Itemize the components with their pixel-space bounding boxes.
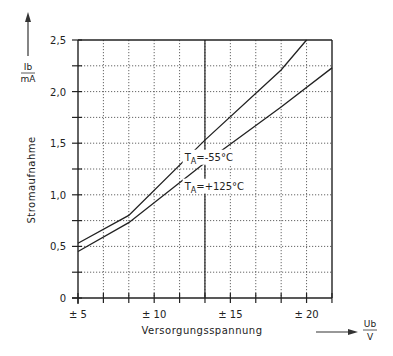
tick-labels: ± 5± 10± 15± 2000,51,01,52,02,5 xyxy=(50,35,319,320)
x-tick-label: ± 15 xyxy=(218,309,242,320)
y-axis-arrowhead-icon xyxy=(25,12,31,22)
y-unit-denominator: mA xyxy=(21,74,37,84)
x-tick-label: ± 10 xyxy=(142,309,166,320)
y-tick-label: 0,5 xyxy=(50,241,66,252)
y-axis-title: Stromaufnahme xyxy=(26,136,37,223)
axis-labels: Ib mA Stromaufnahme Versorgungsspannung … xyxy=(21,12,377,342)
y-unit-numerator: Ib xyxy=(24,62,33,72)
y-tick-label: 1,0 xyxy=(50,190,66,201)
axes xyxy=(72,40,332,304)
y-tick-label: 2,5 xyxy=(50,35,66,46)
x-axis-arrowhead-icon xyxy=(348,329,358,335)
x-tick-label: ± 5 xyxy=(69,309,87,320)
chart: Ib mA Stromaufnahme Versorgungsspannung … xyxy=(0,0,393,356)
x-unit-numerator: Ub xyxy=(364,319,377,329)
y-tick-label: 1,5 xyxy=(50,138,66,149)
y-tick-label: 2,0 xyxy=(50,87,66,98)
series-line-0 xyxy=(78,40,307,243)
x-axis-title: Versorgungsspannung xyxy=(141,325,262,336)
x-tick-label: ± 20 xyxy=(294,309,318,320)
x-unit-denominator: V xyxy=(367,332,374,342)
y-tick-label: 0 xyxy=(60,293,66,304)
